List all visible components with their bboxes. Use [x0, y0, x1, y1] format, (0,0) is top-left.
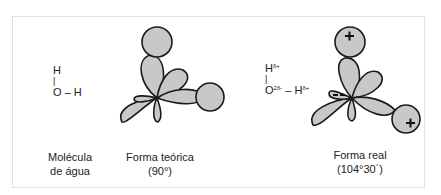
orbital-real	[312, 27, 420, 133]
orbital-theoretical	[121, 27, 224, 122]
caption-real: Forma real (104°30´)	[320, 148, 400, 176]
caption-theoretical: Forma teórica (90°)	[120, 150, 200, 178]
